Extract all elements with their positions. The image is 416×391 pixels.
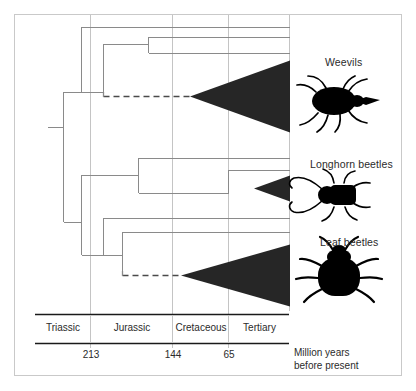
clade-label-leaf-beetles: Leaf beetles bbox=[320, 236, 378, 248]
clade-label-longhorn-beetles: Longhorn beetles bbox=[310, 158, 393, 170]
phylogeny-figure: Weevils Longhorn beetles Leaf beetles Tr… bbox=[0, 0, 416, 391]
clade-label-weevils: Weevils bbox=[325, 56, 362, 68]
gridlines bbox=[91, 15, 290, 348]
axis-caption-line2: before present bbox=[294, 360, 359, 373]
dashed-stem-connectors bbox=[104, 92, 123, 276]
tick-label-65: 65 bbox=[208, 349, 250, 360]
clade-triangles bbox=[181, 61, 290, 307]
weevils-clade-triangle bbox=[190, 61, 290, 133]
period-label-triassic: Triassic bbox=[35, 322, 91, 333]
tree-branches bbox=[48, 27, 290, 275]
axis-caption-line1: Million years bbox=[294, 347, 359, 360]
longhorn-beetle-silhouette-icon bbox=[290, 169, 370, 221]
weevil-silhouette-icon bbox=[297, 76, 380, 132]
axis-caption: Million years before present bbox=[294, 347, 359, 372]
period-label-cretaceous: Cretaceous bbox=[173, 322, 229, 333]
period-label-jurassic: Jurassic bbox=[91, 322, 173, 333]
leaf-beetles-clade-triangle bbox=[181, 245, 290, 307]
longhorn-beetles-clade-triangle bbox=[254, 176, 290, 202]
dashed-stems bbox=[104, 97, 192, 276]
tick-label-213: 213 bbox=[70, 349, 112, 360]
period-label-tertiary: Tertiary bbox=[229, 322, 290, 333]
tick-label-144: 144 bbox=[152, 349, 194, 360]
